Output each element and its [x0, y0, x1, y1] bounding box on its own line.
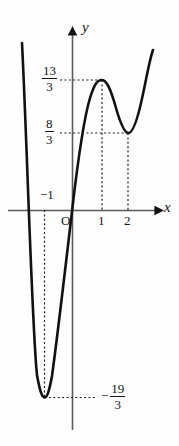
graph-figure: y x O −1 1 2 13 3 8 3 − 19 3: [0, 0, 179, 446]
origin-label: O: [61, 214, 70, 227]
y-tick-label-13-over-3: 13 3: [42, 64, 57, 94]
fraction-numerator: 8: [45, 117, 54, 132]
x-tick-label-1: 1: [98, 214, 105, 227]
function-curve: [22, 43, 153, 398]
y-tick-label-8-over-3: 8 3: [45, 117, 54, 147]
y-axis-label: y: [82, 20, 89, 35]
signed-fraction-neg-19-over-3: − 19 3: [101, 382, 125, 412]
fraction-numerator: 13: [42, 64, 57, 79]
y-tick-label-neg-19-over-3: − 19 3: [101, 382, 125, 412]
minus-sign: −: [101, 389, 108, 402]
fraction-13-over-3: 13 3: [42, 64, 57, 94]
x-tick-label-neg-1: −1: [40, 188, 54, 201]
fraction-denominator: 3: [110, 397, 125, 411]
fraction-8-over-3: 8 3: [45, 117, 54, 147]
fraction-19-over-3: 19 3: [110, 382, 125, 412]
graph-canvas: [0, 0, 179, 446]
x-axis-label: x: [164, 200, 171, 215]
x-tick-label-2: 2: [124, 214, 131, 227]
fraction-numerator: 19: [110, 382, 125, 397]
fraction-denominator: 3: [42, 79, 57, 93]
fraction-denominator: 3: [45, 132, 54, 146]
